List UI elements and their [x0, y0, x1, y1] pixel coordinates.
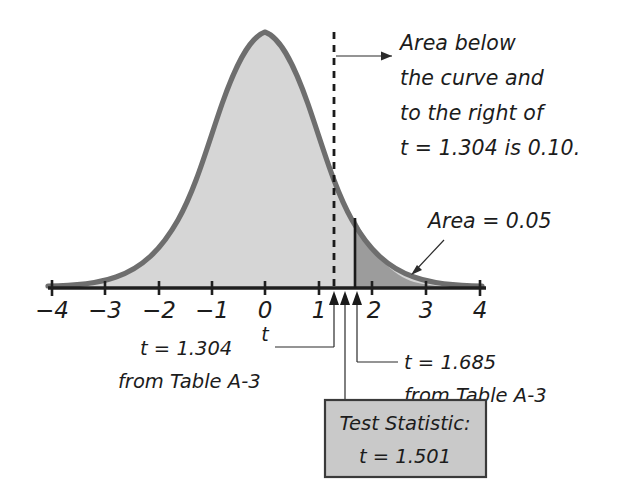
area-label: Area = 0.05 — [426, 209, 551, 233]
axis-variable-label: t — [261, 323, 270, 345]
callout-line-3: to the right of — [400, 101, 546, 125]
callout-line-4: t = 1.304 is 0.10. — [400, 136, 580, 160]
right-callout-text: Area below the curve and to the right of… — [398, 31, 580, 160]
tick-label-neg2: −2 — [142, 297, 176, 323]
tick-label-neg3: −3 — [88, 297, 122, 323]
arrow-t-1304 — [275, 291, 339, 347]
callout-arrow — [336, 52, 392, 61]
tick-label-4: 4 — [473, 297, 488, 323]
arrow-t-1501 — [340, 291, 350, 400]
callout-line-1: Area below — [398, 31, 516, 55]
test-statistic-title: Test Statistic: — [339, 412, 470, 435]
callout-line-2: the curve and — [400, 66, 545, 90]
left-leader-line-2: from Table A-3 — [118, 370, 261, 393]
t-distribution-figure: −4 −3 −2 −1 0 1 2 3 4 t Area below the c… — [0, 0, 625, 494]
tick-label-2: 2 — [367, 297, 382, 323]
tick-label-1: 1 — [312, 297, 327, 323]
right-leader-line-1: t = 1.685 — [404, 351, 496, 374]
tick-label-0: 0 — [258, 297, 273, 323]
right-leader-label: t = 1.685 from Table A-3 — [404, 351, 547, 407]
test-statistic-value: t = 1.501 — [359, 445, 451, 468]
left-leader-line-1: t = 1.304 — [140, 337, 232, 360]
tick-label-neg4: −4 — [35, 297, 69, 323]
tick-label-neg1: −1 — [195, 297, 229, 323]
left-leader-label: t = 1.304 from Table A-3 — [118, 337, 261, 393]
area-label-arrow — [411, 240, 444, 275]
test-statistic-box: Test Statistic: t = 1.501 — [325, 400, 486, 477]
tick-label-3: 3 — [419, 297, 434, 323]
